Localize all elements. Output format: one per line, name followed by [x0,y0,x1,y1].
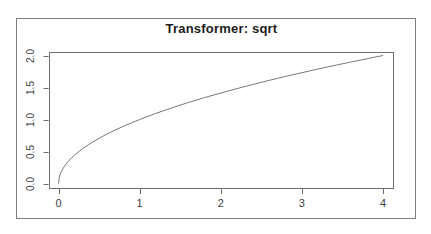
curve-layer [0,0,431,234]
y-tick-label: 1.5 [25,81,36,95]
x-tick-label: 0 [55,197,61,209]
x-tick-label: 2 [218,197,224,209]
y-tick-label: 1.0 [25,113,36,127]
x-tick-label: 1 [137,197,143,209]
x-tick-label: 3 [299,197,305,209]
y-tick-label: 2.0 [25,49,36,63]
figure: Transformer: sqrt 01234 0.00.51.01.52.0 [0,0,431,234]
y-tick-label: 0.0 [25,177,36,191]
y-tick-label: 0.5 [25,145,36,159]
x-tick-label: 4 [380,197,386,209]
sqrt-curve [59,56,384,184]
